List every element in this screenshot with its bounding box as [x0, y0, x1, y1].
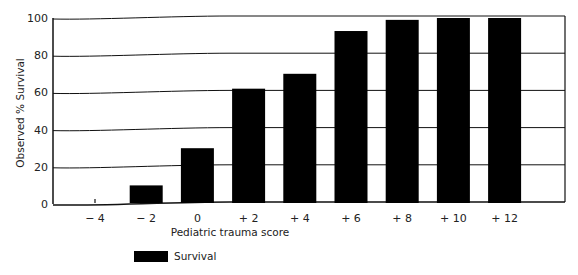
bar: [283, 74, 316, 203]
y-axis-title: Observed % Survival: [14, 58, 26, 168]
bar-chart: 020406080100 − 4− 20+ 2+ 4+ 6+ 8+ 10+ 12…: [0, 0, 578, 275]
bar: [335, 31, 368, 203]
x-tick-label: + 10: [440, 212, 467, 225]
bar: [386, 20, 419, 203]
y-tick-label: 60: [34, 86, 48, 99]
x-tick-label: + 4: [290, 212, 310, 225]
y-axis-ticks: 020406080100: [27, 12, 48, 211]
bar: [488, 18, 521, 203]
y-tick-label: 100: [27, 12, 48, 25]
bar: [232, 89, 265, 203]
x-tick-label: + 6: [341, 212, 361, 225]
y-tick-label: 40: [34, 124, 48, 137]
legend-swatch: [134, 251, 168, 262]
x-axis-title: Pediatric trauma score: [171, 226, 290, 238]
legend-label: Survival: [174, 250, 216, 262]
y-tick-label: 0: [41, 198, 48, 211]
bars: [95, 18, 521, 203]
x-tick-label: 0: [194, 212, 201, 225]
x-tick-label: − 4: [85, 212, 105, 225]
x-tick-label: + 12: [491, 212, 518, 225]
bar: [130, 185, 163, 203]
x-axis-ticks: − 4− 20+ 2+ 4+ 6+ 8+ 10+ 12: [85, 212, 518, 225]
y-tick-label: 80: [34, 49, 48, 62]
bar: [181, 148, 214, 203]
y-tick-label: 20: [34, 161, 48, 174]
x-tick-label: + 2: [239, 212, 259, 225]
x-tick-label: − 2: [136, 212, 156, 225]
bar: [437, 18, 470, 203]
x-tick-label: + 8: [392, 212, 412, 225]
